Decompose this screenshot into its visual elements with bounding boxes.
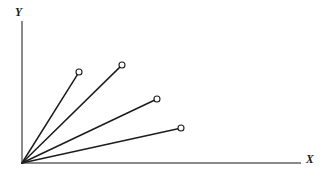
figure-canvas: Y X xyxy=(0,0,325,177)
vector-diagram-svg xyxy=(0,0,325,177)
x-axis-label: X xyxy=(306,154,314,166)
ray-line-2 xyxy=(22,67,120,163)
ray-group xyxy=(22,67,178,163)
ray-endpoint-marker-1 xyxy=(76,69,82,75)
axis-group xyxy=(22,22,300,163)
endpoint-marker-group xyxy=(76,62,184,131)
ray-endpoint-marker-3 xyxy=(154,96,160,102)
ray-endpoint-marker-2 xyxy=(119,62,125,68)
y-axis-label: Y xyxy=(15,7,22,19)
ray-endpoint-marker-4 xyxy=(178,125,184,131)
ray-line-4 xyxy=(22,129,178,163)
